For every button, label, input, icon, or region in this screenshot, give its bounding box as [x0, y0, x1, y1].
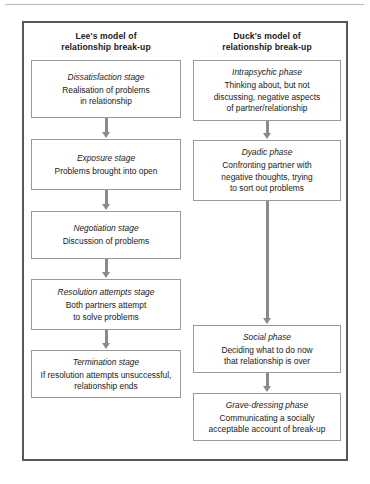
lee-stage-desc-dissatisfaction-line1: Realisation of problems [35, 85, 177, 96]
column-title-duck-line2: relationship break-up [193, 42, 341, 53]
duck-arrowhead-3-icon [263, 386, 271, 392]
lee-stage-label-termination: Termination stage [35, 356, 177, 368]
duck-connector-2 [266, 201, 269, 321]
duck-phase-desc-dyadic-line2: negative thoughts, trying [197, 172, 337, 183]
lee-stage-desc-termination-line2: relationship ends [35, 381, 177, 392]
duck-arrowhead-2-icon [263, 318, 271, 324]
duck-phase-desc-dyadic-line1: Confronting partner with [197, 160, 337, 171]
column-title-lee-line2: relationship break-up [31, 42, 181, 53]
duck-phase-desc-grave-dressing-line1: Communicating a socially [197, 413, 337, 424]
lee-stage-label-resolution-attempts: Resolution attempts stage [35, 286, 177, 298]
column-title-lee: Lee's model of relationship break-up [31, 31, 181, 53]
lee-stage-desc-termination-line1: If resolution attempts unsuccessful, [35, 370, 177, 381]
lee-stage-desc-negotiation-line1: Discussion of problems [35, 236, 177, 247]
lee-stage-label-dissatisfaction: Dissatisfaction stage [35, 71, 177, 83]
duck-phase-label-dyadic: Dyadic phase [197, 146, 337, 158]
duck-phase-desc-social-line2: that relationship is over [197, 356, 337, 367]
lee-stage-box-negotiation: Negotiation stage Discussion of problems [31, 211, 181, 259]
lee-arrowhead-3-icon [102, 272, 110, 278]
duck-phase-label-social: Social phase [197, 331, 337, 343]
lee-stage-desc-resolution-line2: to solve problems [35, 312, 177, 323]
lee-arrowhead-1-icon [102, 132, 110, 138]
lee-stage-box-termination: Termination stage If resolution attempts… [31, 350, 181, 398]
duck-phase-desc-grave-dressing-line2: acceptable account of break-up [197, 424, 337, 435]
duck-arrowhead-1-icon [263, 133, 271, 139]
duck-phase-desc-dyadic-line3: to sort out problems [197, 183, 337, 194]
duck-phase-desc-intrapsychic-line1: Thinking about, but not [197, 80, 337, 91]
duck-phase-box-intrapsychic: Intrapsychic phase Thinking about, but n… [193, 60, 341, 121]
column-title-duck-line1: Duck's model of [193, 31, 341, 42]
column-title-lee-line1: Lee's model of [31, 31, 181, 42]
top-divider-rule [5, 4, 364, 5]
lee-stage-box-dissatisfaction: Dissatisfaction stage Realisation of pro… [31, 60, 181, 118]
duck-phase-desc-social-line1: Deciding what to do now [197, 345, 337, 356]
lee-stage-box-resolution-attempts: Resolution attempts stage Both partners … [31, 279, 181, 330]
lee-stage-box-exposure: Exposure stage Problems brought into ope… [31, 139, 181, 190]
duck-phase-label-intrapsychic: Intrapsychic phase [197, 66, 337, 78]
duck-phase-box-dyadic: Dyadic phase Confronting partner with ne… [193, 140, 341, 201]
lee-stage-label-negotiation: Negotiation stage [35, 222, 177, 234]
duck-phase-box-grave-dressing: Grave-dressing phase Communicating a soc… [193, 393, 341, 441]
lee-stage-label-exposure: Exposure stage [35, 152, 177, 164]
lee-stage-desc-exposure-line1: Problems brought into open [35, 166, 177, 177]
lee-stage-desc-dissatisfaction-line2: in relationship [35, 96, 177, 107]
duck-phase-desc-intrapsychic-line2: discussing, negative aspects [197, 92, 337, 103]
lee-stage-desc-resolution-line1: Both partners attempt [35, 300, 177, 311]
duck-phase-box-social: Social phase Deciding what to do now tha… [193, 325, 341, 373]
duck-phase-label-grave-dressing: Grave-dressing phase [197, 399, 337, 411]
lee-arrowhead-4-icon [102, 343, 110, 349]
diagram-canvas: Lee's model of relationship break-up Duc… [0, 0, 370, 484]
column-title-duck: Duck's model of relationship break-up [193, 31, 341, 53]
lee-arrowhead-2-icon [102, 204, 110, 210]
duck-phase-desc-intrapsychic-line3: of partner/relationship [197, 103, 337, 114]
